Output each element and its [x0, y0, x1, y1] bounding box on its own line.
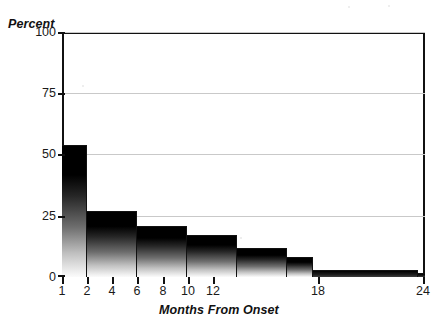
y-tick-100: [58, 32, 65, 34]
x-tick-label-2: 2: [84, 285, 91, 298]
scan-speckle-icon: [388, 5, 390, 7]
scan-speckle-icon: [82, 85, 84, 87]
y-tick-label-0: 0: [16, 271, 56, 284]
x-tick-4: [112, 277, 114, 284]
y-tick-25: [58, 216, 65, 218]
x-tick-label-1: 1: [59, 285, 66, 298]
y-tick-75: [58, 93, 65, 95]
x-tick-1: [62, 277, 64, 284]
x-tick-label-10: 10: [181, 285, 195, 298]
x-tick-18: [318, 277, 320, 284]
y-tick-50: [58, 154, 65, 156]
y-tick-label-50: 50: [16, 148, 56, 161]
x-tick-6: [137, 277, 139, 284]
x-tick-24: [423, 277, 425, 284]
scan-speckle-icon: [348, 6, 350, 8]
x-tick-10: [188, 277, 190, 284]
x-axis-title: Months From Onset: [0, 303, 438, 317]
y-tick-label-25: 25: [16, 210, 56, 223]
x-tick-label-8: 8: [160, 285, 167, 298]
x-tick-label-12: 12: [206, 285, 220, 298]
y-ticks-layer: [62, 32, 425, 277]
y-axis-labels: 100 75 50 25 0: [12, 32, 56, 277]
x-tick-12: [213, 277, 215, 284]
chart-figure: Percent 100 75 50 25 0: [0, 0, 438, 331]
scan-speckle-icon: [240, 237, 242, 239]
x-tick-label-4: 4: [109, 285, 116, 298]
x-tick-label-6: 6: [134, 285, 141, 298]
x-tick-8: [163, 277, 165, 284]
x-tick-2: [87, 277, 89, 284]
y-tick-label-100: 100: [16, 26, 56, 39]
x-tick-label-24: 24: [416, 285, 430, 298]
y-tick-label-75: 75: [16, 87, 56, 100]
x-tick-label-18: 18: [311, 285, 325, 298]
